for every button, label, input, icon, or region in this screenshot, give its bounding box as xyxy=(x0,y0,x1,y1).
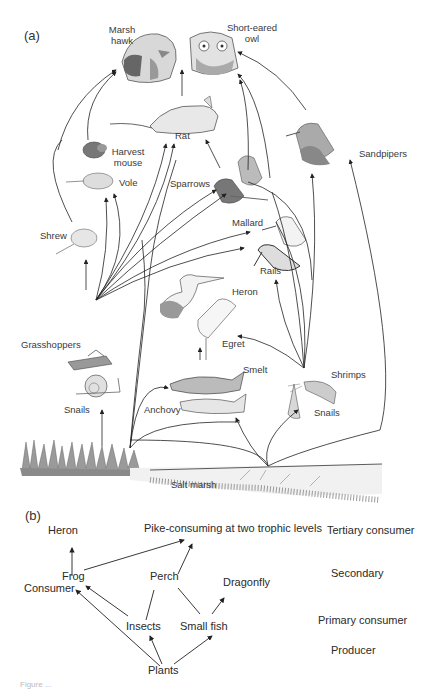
grasshopper-icon xyxy=(68,350,112,370)
harvest-mouse-icon xyxy=(83,142,107,158)
shrew-label: Shrew xyxy=(40,230,67,241)
harvest-mouse-label-line1: Harvest xyxy=(108,146,148,157)
shrimps-label: Shrimps xyxy=(331,369,366,380)
level-tertiary: Tertiary consumer xyxy=(327,524,414,536)
rat-icon xyxy=(110,96,218,134)
rails-label: Rails xyxy=(260,265,281,276)
egret-label: Egret xyxy=(222,338,245,349)
marsh-hawk-label-line2: hawk xyxy=(102,35,142,46)
node-perch: Perch xyxy=(150,570,179,582)
node-plants: Plants xyxy=(148,664,179,676)
marsh-hawk-label-line1: Marsh xyxy=(102,24,142,35)
sandpipers-icon xyxy=(286,123,334,165)
snail-left-icon xyxy=(76,375,120,397)
sandpipers-label: Sandpipers xyxy=(359,148,407,159)
harvest-mouse-label: Harvest mouse xyxy=(108,146,148,168)
anchovy-icon xyxy=(180,394,246,414)
mallard-label: Mallard xyxy=(232,217,263,228)
node-dragonfly: Dragonfly xyxy=(223,576,270,588)
smelt-icon xyxy=(170,372,244,394)
node-frog: Frog xyxy=(62,570,85,582)
heron-label: Heron xyxy=(232,286,258,297)
snails-right-label: Snails xyxy=(314,407,340,418)
sparrows-icon xyxy=(214,156,268,203)
node-heron: Heron xyxy=(48,524,78,536)
anchovy-label: Anchovy xyxy=(144,404,180,415)
level-primary: Primary consumer xyxy=(318,614,407,626)
owl-label-line1: Short-eared xyxy=(222,22,282,33)
salt-marsh-label: Salt marsh xyxy=(171,479,216,490)
short-eared-owl-label: Short-eared owl xyxy=(222,22,282,44)
node-consumer: Consumer xyxy=(24,582,75,594)
panel-b-arrows xyxy=(72,540,224,666)
figure-caption: Figure ... xyxy=(20,680,52,689)
panel-a-label: (a) xyxy=(24,28,40,43)
egret-icon xyxy=(198,299,236,360)
snails-left-label: Snails xyxy=(64,404,90,415)
rat-label: Rat xyxy=(175,130,190,141)
node-small-fish: Small fish xyxy=(180,620,228,632)
vole-icon xyxy=(66,173,113,189)
level-secondary: Secondary xyxy=(331,567,384,579)
vole-label: Vole xyxy=(119,177,138,188)
owl-label-line2: owl xyxy=(222,33,282,44)
panel-b-label: (b) xyxy=(25,508,41,523)
node-pike: Pike-consuming at two trophic levels xyxy=(144,522,322,534)
sparrows-label: Sparrows xyxy=(170,178,210,189)
smelt-label: Smelt xyxy=(243,364,267,375)
salt-marsh-ground xyxy=(20,440,382,500)
harvest-mouse-label-line2: mouse xyxy=(108,157,148,168)
grasshoppers-label: Grasshoppers xyxy=(21,339,81,350)
level-producer: Producer xyxy=(331,644,376,656)
marsh-hawk-label: Marsh hawk xyxy=(102,24,142,46)
node-insects: Insects xyxy=(126,620,161,632)
